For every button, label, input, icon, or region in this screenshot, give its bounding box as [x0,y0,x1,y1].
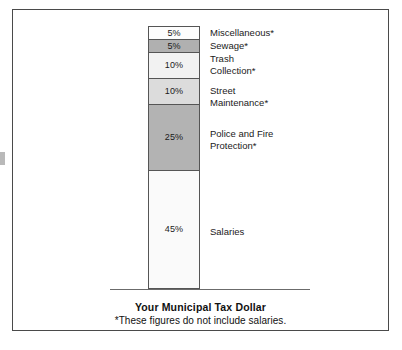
stacked-bar-chart: 5% 5% 10% 10% 25% 45% Miscellaneous* Sew… [0,0,402,350]
segment-label-police-and-fire: Police and Fire Protection* [210,128,273,151]
figure-footnote: *These figures do not include salaries. [12,314,389,327]
bar-segment-trash-collection[interactable]: 10% [149,53,199,79]
segment-value-label: 10% [165,87,183,96]
segment-label-trash-collection: Trash Collection* [210,53,255,76]
segment-value-label: 10% [165,61,183,70]
figure-page: 5% 5% 10% 10% 25% 45% Miscellaneous* Sew… [0,0,402,350]
bar-segment-street-maintenance[interactable]: 10% [149,79,199,105]
segment-label-salaries: Salaries [210,226,244,238]
bar-segment-miscellaneous[interactable]: 5% [149,27,199,40]
segment-label-street-maintenance: Street Maintenance* [210,85,268,108]
stacked-bar: 5% 5% 10% 10% 25% 45% [148,26,200,289]
segment-value-label: 5% [167,29,180,38]
figure-caption: Your Municipal Tax Dollar *These figures… [12,301,389,327]
segment-label-sewage: Sewage* [210,40,248,52]
figure-title: Your Municipal Tax Dollar [12,301,389,314]
bar-segment-salaries[interactable]: 45% [149,171,199,288]
segment-value-label: 25% [165,133,183,142]
bar-segment-police-and-fire[interactable]: 25% [149,105,199,170]
segment-value-label: 5% [167,42,180,51]
bar-segment-sewage[interactable]: 5% [149,40,199,53]
segment-value-label: 45% [165,225,183,234]
segment-label-column: Miscellaneous* Sewage* Trash Collection*… [210,26,360,289]
footer-divider [110,289,310,290]
segment-label-miscellaneous: Miscellaneous* [210,27,274,39]
